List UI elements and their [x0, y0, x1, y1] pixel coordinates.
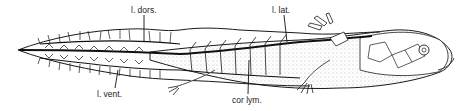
leader-l-vent — [115, 70, 118, 88]
eye — [419, 45, 429, 55]
label-l-vent: l. vent. — [97, 90, 122, 99]
hindlimb — [168, 70, 215, 95]
label-l-lat: l. lat. — [272, 6, 290, 15]
label-cor-lym: cor lym. — [232, 96, 262, 105]
label-l-dors: l. dors. — [131, 6, 157, 15]
leader-l-lat — [284, 15, 287, 42]
